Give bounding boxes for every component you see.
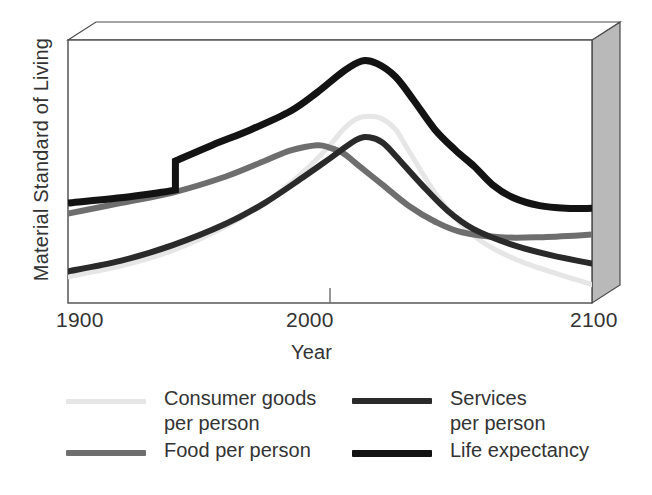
legend-item-food: Food per person (66, 440, 356, 492)
legend-label-services: Services per person (450, 386, 546, 436)
legend-swatch-consumer-goods (66, 399, 146, 404)
legend-label-consumer-goods: Consumer goods per person (164, 386, 316, 436)
legend-item-consumer-goods: Consumer goods per person (66, 388, 356, 440)
x-axis-tick-label-2100: 2100 (570, 308, 618, 332)
legend-column-right: Services per person Life expectancy (352, 388, 632, 492)
x-axis-tick-label-2000: 2000 (286, 308, 334, 332)
x-axis-label: Year (291, 341, 332, 364)
x-axis-tick-label-1900: 1900 (56, 308, 104, 332)
legend-swatch-life-expectancy (352, 450, 432, 457)
legend-swatch-food (66, 450, 146, 456)
legend-item-services: Services per person (352, 388, 632, 440)
legend-swatch-services (352, 398, 432, 404)
legend-label-life-expectancy: Life expectancy (450, 438, 589, 463)
box-top-face (68, 22, 620, 40)
y-axis-label: Material Standard of Living (30, 35, 53, 285)
legend-column-left: Consumer goods per person Food per perso… (66, 388, 356, 492)
box-right-face (592, 22, 620, 303)
chart-legend: Consumer goods per person Food per perso… (66, 388, 626, 488)
legend-item-life-expectancy: Life expectancy (352, 440, 632, 492)
legend-label-food: Food per person (164, 438, 311, 463)
chart-root: Material Standard of Living 1900 2000 21… (0, 0, 652, 495)
